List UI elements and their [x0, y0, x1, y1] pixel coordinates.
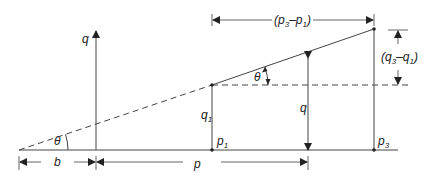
- diagram-canvas: q θ θ q1 p1 q p3 b p (p3–p1) (q3: [0, 0, 425, 183]
- theta-left-label: θ: [54, 134, 61, 148]
- p1-label: p1: [216, 134, 228, 150]
- p3-label: p3: [377, 134, 390, 150]
- q-axis-label: q: [82, 32, 89, 46]
- b-label: b: [54, 155, 61, 169]
- q1-label: q1: [201, 108, 212, 124]
- dp-label: (p3–p1): [274, 13, 311, 29]
- point-p1-top: [210, 83, 214, 87]
- theta-arc-arrow-bottom: [266, 79, 271, 85]
- point-p1-base: [210, 148, 214, 152]
- theta-arc-left: [66, 135, 69, 151]
- sloped-line: [212, 29, 374, 85]
- dq-label: (q3–q1): [381, 50, 418, 66]
- point-p3-base: [372, 148, 376, 152]
- theta-right-label: θ: [254, 70, 261, 84]
- p-label: p: [193, 157, 201, 171]
- dashed-extension-line: [19, 85, 212, 150]
- q-mid-label: q: [300, 101, 307, 115]
- point-p3-top: [372, 27, 376, 31]
